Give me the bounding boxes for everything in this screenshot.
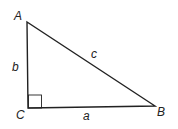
side-label-c: c	[91, 47, 97, 61]
side-label-a: a	[83, 109, 90, 123]
right-angle-marker	[29, 95, 42, 108]
vertex-label-b: B	[157, 105, 165, 119]
vertex-label-c: C	[16, 108, 25, 122]
side-label-b: b	[12, 60, 19, 74]
vertex-label-a: A	[13, 9, 22, 23]
right-triangle-diagram: A B C a b c	[0, 0, 178, 129]
triangle-shape	[27, 22, 155, 108]
